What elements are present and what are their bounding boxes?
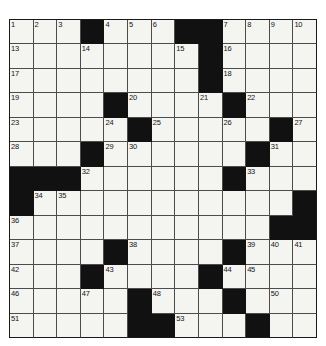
crossword-cell[interactable] — [81, 69, 105, 93]
crossword-cell[interactable]: 31 — [270, 142, 294, 166]
crossword-cell[interactable] — [293, 289, 317, 313]
crossword-cell[interactable]: 37 — [10, 240, 34, 264]
crossword-cell[interactable] — [34, 216, 58, 240]
crossword-cell[interactable]: 14 — [81, 44, 105, 68]
crossword-cell[interactable]: 22 — [246, 93, 270, 117]
crossword-cell[interactable] — [175, 69, 199, 93]
crossword-cell[interactable]: 25 — [152, 118, 176, 142]
crossword-cell[interactable] — [246, 191, 270, 215]
crossword-cell[interactable] — [128, 265, 152, 289]
crossword-cell[interactable]: 19 — [10, 93, 34, 117]
crossword-cell[interactable] — [34, 118, 58, 142]
crossword-cell[interactable]: 44 — [223, 265, 247, 289]
crossword-cell[interactable] — [34, 240, 58, 264]
crossword-cell[interactable]: 21 — [199, 93, 223, 117]
crossword-cell[interactable] — [128, 44, 152, 68]
crossword-cell[interactable]: 7 — [223, 20, 247, 44]
crossword-cell[interactable]: 27 — [293, 118, 317, 142]
crossword-cell[interactable] — [293, 265, 317, 289]
crossword-cell[interactable] — [104, 314, 128, 338]
crossword-cell[interactable] — [57, 240, 81, 264]
crossword-cell[interactable]: 38 — [128, 240, 152, 264]
crossword-cell[interactable]: 24 — [104, 118, 128, 142]
crossword-cell[interactable]: 15 — [175, 44, 199, 68]
crossword-cell[interactable] — [175, 191, 199, 215]
crossword-cell[interactable] — [175, 240, 199, 264]
crossword-cell[interactable] — [152, 265, 176, 289]
crossword-cell[interactable] — [199, 289, 223, 313]
crossword-cell[interactable] — [34, 289, 58, 313]
crossword-cell[interactable] — [81, 240, 105, 264]
crossword-cell[interactable] — [270, 314, 294, 338]
crossword-cell[interactable] — [270, 69, 294, 93]
crossword-cell[interactable]: 20 — [128, 93, 152, 117]
crossword-cell[interactable]: 16 — [223, 44, 247, 68]
crossword-cell[interactable]: 48 — [152, 289, 176, 313]
crossword-cell[interactable] — [223, 216, 247, 240]
crossword-cell[interactable]: 35 — [57, 191, 81, 215]
crossword-cell[interactable] — [270, 167, 294, 191]
crossword-cell[interactable]: 26 — [223, 118, 247, 142]
crossword-cell[interactable] — [293, 314, 317, 338]
crossword-cell[interactable]: 34 — [34, 191, 58, 215]
crossword-cell[interactable] — [81, 93, 105, 117]
crossword-cell[interactable]: 23 — [10, 118, 34, 142]
crossword-cell[interactable]: 10 — [293, 20, 317, 44]
crossword-cell[interactable] — [57, 44, 81, 68]
crossword-cell[interactable] — [81, 314, 105, 338]
crossword-cell[interactable] — [175, 142, 199, 166]
crossword-cell[interactable] — [128, 69, 152, 93]
crossword-cell[interactable] — [152, 93, 176, 117]
crossword-cell[interactable] — [104, 69, 128, 93]
crossword-cell[interactable] — [57, 216, 81, 240]
crossword-cell[interactable] — [175, 93, 199, 117]
crossword-cell[interactable]: 45 — [246, 265, 270, 289]
crossword-cell[interactable] — [152, 216, 176, 240]
crossword-cell[interactable]: 53 — [175, 314, 199, 338]
crossword-cell[interactable] — [175, 289, 199, 313]
crossword-cell[interactable]: 2 — [34, 20, 58, 44]
crossword-cell[interactable] — [34, 314, 58, 338]
crossword-cell[interactable] — [57, 265, 81, 289]
crossword-cell[interactable] — [34, 93, 58, 117]
crossword-cell[interactable] — [175, 118, 199, 142]
crossword-cell[interactable]: 47 — [81, 289, 105, 313]
crossword-cell[interactable] — [81, 216, 105, 240]
crossword-cell[interactable]: 8 — [246, 20, 270, 44]
crossword-cell[interactable] — [152, 240, 176, 264]
crossword-cell[interactable]: 42 — [10, 265, 34, 289]
crossword-cell[interactable] — [293, 69, 317, 93]
crossword-cell[interactable] — [57, 289, 81, 313]
crossword-cell[interactable] — [34, 44, 58, 68]
crossword-cell[interactable] — [246, 289, 270, 313]
crossword-cell[interactable]: 51 — [10, 314, 34, 338]
crossword-cell[interactable]: 41 — [293, 240, 317, 264]
crossword-cell[interactable]: 17 — [10, 69, 34, 93]
crossword-cell[interactable]: 36 — [10, 216, 34, 240]
crossword-cell[interactable]: 33 — [246, 167, 270, 191]
crossword-cell[interactable] — [34, 69, 58, 93]
crossword-cell[interactable] — [270, 191, 294, 215]
crossword-cell[interactable] — [246, 216, 270, 240]
crossword-cell[interactable] — [223, 191, 247, 215]
crossword-cell[interactable]: 3 — [57, 20, 81, 44]
crossword-cell[interactable] — [57, 142, 81, 166]
crossword-cell[interactable] — [81, 191, 105, 215]
crossword-cell[interactable] — [152, 191, 176, 215]
crossword-cell[interactable]: 18 — [223, 69, 247, 93]
crossword-cell[interactable] — [223, 142, 247, 166]
crossword-cell[interactable]: 39 — [246, 240, 270, 264]
crossword-cell[interactable] — [199, 216, 223, 240]
crossword-cell[interactable] — [199, 191, 223, 215]
crossword-cell[interactable] — [152, 44, 176, 68]
crossword-cell[interactable] — [57, 314, 81, 338]
crossword-cell[interactable] — [293, 167, 317, 191]
crossword-cell[interactable]: 46 — [10, 289, 34, 313]
crossword-cell[interactable] — [104, 167, 128, 191]
crossword-cell[interactable] — [246, 69, 270, 93]
crossword-cell[interactable] — [199, 240, 223, 264]
crossword-cell[interactable] — [34, 265, 58, 289]
crossword-cell[interactable]: 13 — [10, 44, 34, 68]
crossword-cell[interactable] — [270, 44, 294, 68]
crossword-cell[interactable] — [246, 118, 270, 142]
